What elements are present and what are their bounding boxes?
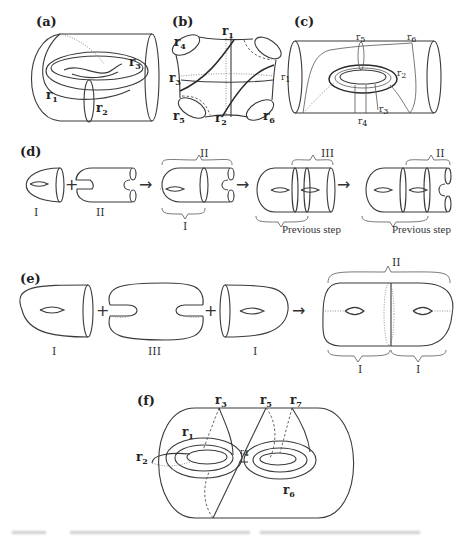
torus-hole	[340, 70, 386, 84]
result-3-hole-1	[374, 188, 392, 193]
result-1-shell	[162, 168, 230, 202]
result-hole-1	[345, 307, 364, 315]
panel-c-label: (c)	[294, 14, 314, 29]
panel-d: (d) I + II → II I → III	[20, 144, 451, 235]
brace-top-1-label: II	[200, 147, 209, 160]
previous-step-1-label: Previous step	[282, 223, 341, 235]
curve-r4	[355, 85, 366, 113]
torus-outer	[329, 65, 397, 93]
panel-e-label: (e)	[20, 271, 41, 286]
panel-a-label: (a)	[36, 14, 57, 29]
arrow: →	[292, 301, 305, 320]
piece-I-right-shell	[225, 285, 288, 337]
label-r2: r2	[96, 101, 108, 117]
panel-f: (f) r3 r5 r7 r1 r2 r4 r6	[136, 393, 354, 518]
result-hole-2	[413, 307, 432, 315]
end-top-right	[251, 33, 285, 63]
curve-r3-dashed	[203, 408, 219, 450]
brace-bottom-1-label: I	[183, 220, 187, 233]
result-2-seam-2	[304, 168, 310, 212]
brace-bottom-right-label: I	[416, 363, 420, 376]
brace-bottom-right	[391, 350, 446, 362]
result-2-hole-1	[271, 188, 289, 193]
label-r1: r1	[281, 72, 290, 84]
result-shell	[323, 283, 453, 346]
cylinder-left-cap	[32, 34, 61, 121]
right-torus-hole	[260, 453, 296, 465]
label-r4: r4	[174, 35, 186, 51]
cylinder-right-end	[145, 34, 159, 121]
left-torus-outer	[166, 438, 242, 478]
curve-r7	[292, 408, 310, 452]
brace-top-1	[162, 155, 232, 165]
label-r7: r7	[290, 393, 302, 409]
result-2-end	[327, 168, 335, 212]
arrow-1: →	[139, 175, 152, 194]
piece-I-label: I	[34, 206, 38, 219]
piece-III-top	[109, 283, 203, 305]
curve-r2-hidden	[152, 462, 190, 466]
piece-III-right-slot	[176, 305, 203, 316]
label-r6: r6	[407, 32, 416, 44]
label-r5: r5	[356, 32, 365, 44]
piece-II-notch	[124, 180, 130, 190]
curve-hidden-left	[303, 82, 335, 113]
curve-r2	[84, 80, 94, 122]
piece-I-right-hole	[240, 308, 264, 314]
label-r5: r5	[260, 393, 272, 409]
piece-II-label: II	[96, 206, 105, 219]
plus-sign-2: +	[204, 301, 217, 320]
label-r6: r6	[263, 109, 275, 125]
piece-III-bottom	[109, 316, 203, 340]
panel-e: (e) I + III + I → II I I	[20, 256, 453, 376]
label-r3: r3	[215, 393, 227, 409]
previous-step-2-label: Previous step	[392, 223, 451, 235]
curve-r5-down	[213, 408, 266, 518]
brace-top	[328, 266, 450, 283]
piece-I-label: I	[52, 345, 56, 358]
panel-f-label: (f)	[137, 393, 155, 408]
result-1-hole	[166, 187, 184, 192]
label-r2: r2	[397, 68, 406, 80]
piece-I-end	[56, 168, 64, 202]
left-torus-hole	[187, 450, 227, 464]
label-r3: r3	[129, 55, 141, 71]
piece-I-hole	[40, 307, 64, 313]
label-r2: r2	[136, 450, 148, 466]
brace-top-3-label: II	[436, 147, 445, 160]
arrow-3: →	[337, 175, 350, 194]
label-r1: r1	[222, 24, 234, 40]
curve-r3	[375, 84, 378, 110]
torus-hole-lower	[72, 72, 118, 78]
panel-a: (a) r1 r2 r3	[32, 14, 160, 122]
curve-r3-hidden	[181, 74, 273, 76]
curve-r7-dashed	[280, 408, 292, 453]
result-1-end-bottom	[228, 190, 234, 202]
result-1-notch	[222, 180, 228, 190]
brace-top-2-label: III	[321, 147, 334, 160]
label-r2: r2	[215, 111, 227, 127]
curve-r6	[303, 43, 416, 113]
curve-r2	[335, 68, 391, 88]
curve-r2	[152, 453, 190, 463]
figure-canvas: (a) r1 r2 r3 (b)	[0, 0, 466, 536]
panel-c: (c) r5 r6 r1 r2 r3 r4	[281, 14, 441, 128]
panel-d-label: (d)	[20, 144, 41, 159]
piece-I-end	[83, 285, 93, 337]
label-r3: r3	[379, 104, 388, 116]
result-3-end-top	[445, 168, 451, 184]
figure-caption-truncated	[10, 528, 450, 536]
piece-I-shell	[20, 285, 88, 337]
left-torus-middle	[175, 445, 233, 471]
result-1-seam	[200, 168, 208, 202]
piece-I-right-end	[220, 285, 230, 337]
brace-bottom-left-label: I	[358, 363, 362, 376]
brace-bottom-left	[328, 350, 390, 362]
piece-II-end-bottom	[130, 190, 136, 202]
result-2-seam-1	[292, 168, 298, 212]
piece-I-right-label: I	[253, 345, 257, 358]
label-r4: r4	[358, 116, 367, 128]
label-r1: r1	[46, 88, 58, 104]
arrow-2: →	[236, 175, 249, 194]
piece-II-end-top	[130, 168, 136, 180]
